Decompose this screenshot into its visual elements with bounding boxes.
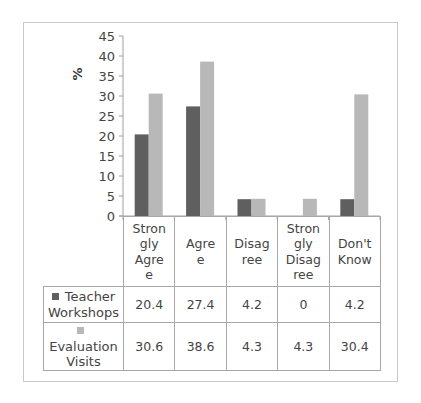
bar-teacher-workshops-2 — [238, 199, 252, 216]
legend-label: Workshops — [48, 305, 119, 320]
legend-swatch-icon — [52, 293, 59, 300]
bar-evaluation-visits-3 — [303, 199, 317, 216]
category-label-line: Agre — [175, 236, 225, 252]
category-label-line: e — [124, 267, 174, 283]
legend-entry: TeacherWorkshops — [44, 287, 124, 323]
table-header-row: StronglyAgreeAgreeDisagreeStronglyDisagr… — [44, 217, 381, 287]
category-label-line: Stron — [124, 221, 174, 237]
table-cell: 38.6 — [175, 323, 226, 371]
y-tick-label: 40 — [98, 49, 115, 64]
bar-teacher-workshops-1 — [186, 106, 200, 216]
table-cell: 4.3 — [278, 323, 329, 371]
table-row: TeacherWorkshops20.427.44.204.2 — [44, 287, 381, 323]
table-cell: 0 — [278, 287, 329, 323]
y-tick-label: 15 — [98, 149, 115, 164]
bar-evaluation-visits-1 — [200, 62, 214, 216]
legend-label: Teacher — [65, 289, 115, 304]
category-label-line: Agre — [124, 252, 174, 268]
category-label-line: Disag — [227, 236, 277, 252]
table-cell: 27.4 — [175, 287, 226, 323]
y-tick-label: 20 — [98, 129, 115, 144]
table-cell: 30.6 — [124, 323, 175, 371]
category-label-line: ree — [227, 252, 277, 268]
category-header: Don'tKnow — [329, 217, 380, 287]
data-table: StronglyAgreeAgreeDisagreeStronglyDisagr… — [43, 216, 381, 371]
y-axis-label: % — [70, 67, 85, 80]
table-row: EvaluationVisits30.638.64.34.330.4 — [44, 323, 381, 371]
bar-teacher-workshops-0 — [135, 134, 149, 216]
table-cell: 4.2 — [329, 287, 380, 323]
bar-teacher-workshops-4 — [340, 199, 354, 216]
y-tick-label: 30 — [98, 89, 115, 104]
y-tick-label: 5 — [107, 189, 115, 204]
category-header: Agree — [175, 217, 226, 287]
table-cell: 4.3 — [226, 323, 277, 371]
table-cell: 30.4 — [329, 323, 380, 371]
table-cell: 4.2 — [226, 287, 277, 323]
y-tick-label: 45 — [98, 29, 115, 44]
category-label-line: gly — [124, 236, 174, 252]
table-cell: 20.4 — [124, 287, 175, 323]
category-header: StronglyDisagree — [278, 217, 329, 287]
legend-label: Visits — [66, 354, 100, 369]
category-label-line: Stron — [278, 221, 328, 237]
category-label-line: gly — [278, 236, 328, 252]
legend-entry: EvaluationVisits — [44, 323, 124, 371]
category-header: Disagree — [226, 217, 277, 287]
legend-label: Evaluation — [49, 339, 118, 354]
table-corner — [44, 217, 124, 287]
category-label-line: ree — [278, 267, 328, 283]
bars — [135, 62, 369, 216]
category-label-line: Don't — [330, 236, 380, 252]
category-label-line: e — [175, 252, 225, 268]
y-tick-label: 25 — [98, 109, 115, 124]
legend-swatch-icon — [77, 327, 84, 334]
category-header: StronglyAgree — [124, 217, 175, 287]
bar-evaluation-visits-2 — [252, 199, 266, 216]
category-label-line: Disag — [278, 252, 328, 268]
y-tick-label: 35 — [98, 69, 115, 84]
bar-evaluation-visits-4 — [354, 94, 368, 216]
y-tick-label: 10 — [98, 169, 115, 184]
bar-evaluation-visits-0 — [149, 94, 163, 216]
category-label-line: Know — [330, 252, 380, 268]
